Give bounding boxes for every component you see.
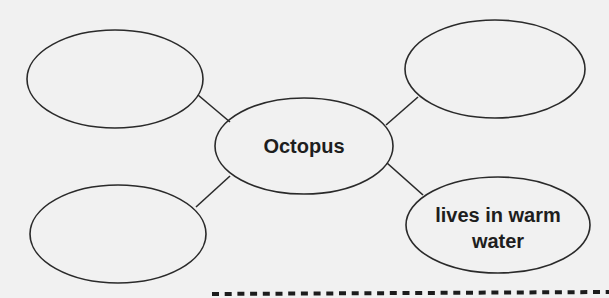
bottom-right-node-label-line-2: water (471, 230, 524, 252)
dashed-cut-line (212, 292, 609, 294)
edge-center-to-bottom-right (387, 163, 423, 195)
edge-center-to-top-left (198, 95, 230, 122)
bottom-right-node-label-line-1: lives in warm (435, 204, 561, 226)
node-bottom-left[interactable] (30, 185, 206, 283)
node-top-left[interactable] (27, 30, 203, 128)
edge-center-to-bottom-left (196, 176, 230, 207)
concept-web: Octopus lives in warm water (0, 0, 609, 298)
node-top-right[interactable] (405, 20, 585, 118)
edge-center-to-top-right (386, 97, 418, 125)
center-node-label: Octopus (263, 135, 344, 157)
